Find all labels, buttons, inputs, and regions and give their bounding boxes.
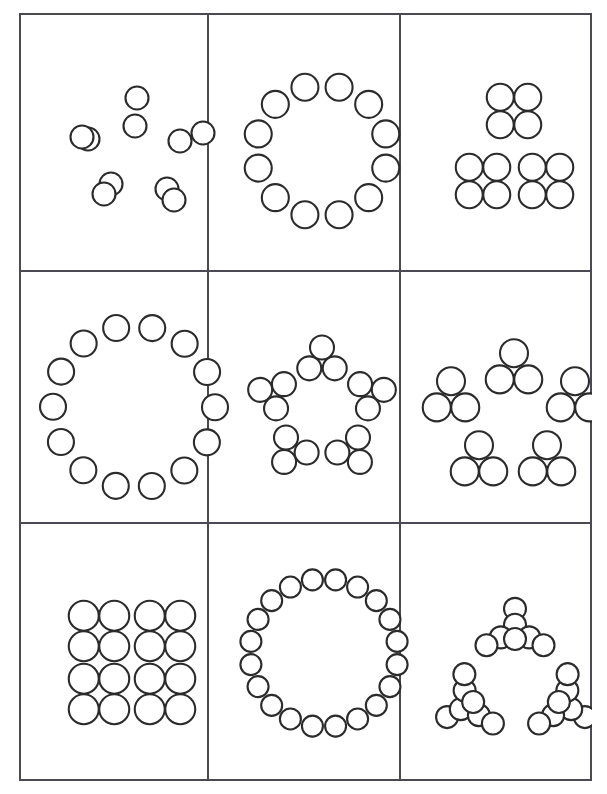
- dot: [323, 356, 347, 380]
- dot: [514, 84, 541, 111]
- dot: [71, 331, 97, 357]
- dot: [486, 365, 514, 393]
- dot: [451, 457, 479, 485]
- dot: [171, 457, 197, 483]
- dot: [387, 654, 408, 675]
- dot: [99, 694, 129, 724]
- dot: [482, 713, 504, 735]
- dot: [487, 84, 514, 111]
- dot: [519, 181, 546, 208]
- dot: [124, 115, 147, 138]
- dot: [479, 457, 507, 485]
- dot: [297, 356, 321, 380]
- dot: [451, 393, 479, 421]
- dot: [325, 569, 346, 590]
- dot: [355, 184, 382, 211]
- dot: [192, 122, 215, 145]
- dot: [519, 154, 546, 181]
- dot: [423, 393, 451, 421]
- dot: [126, 87, 149, 110]
- dot: [165, 631, 195, 661]
- dot: [163, 189, 186, 212]
- dot: [546, 181, 573, 208]
- dot: [356, 396, 380, 420]
- dot: [280, 577, 301, 598]
- dot: [69, 601, 99, 631]
- dot: [262, 91, 289, 118]
- dot: [261, 695, 282, 716]
- dot: [70, 457, 96, 483]
- dot: [274, 426, 298, 450]
- dot: [69, 694, 99, 724]
- dot: [483, 181, 510, 208]
- dot: [487, 111, 514, 138]
- dot: [326, 74, 353, 101]
- dot: [547, 457, 575, 485]
- panel-grid: [19, 13, 592, 781]
- dot: [248, 609, 269, 630]
- dot: [69, 631, 99, 661]
- dot: [547, 393, 575, 421]
- dot: [437, 367, 465, 395]
- dot: [40, 394, 66, 420]
- dot: [48, 429, 74, 455]
- dot: [453, 663, 475, 685]
- dot: [355, 91, 382, 118]
- dot: [245, 155, 272, 182]
- dot: [240, 631, 261, 652]
- dot: [71, 126, 94, 149]
- dot: [48, 359, 74, 385]
- dot: [348, 450, 372, 474]
- dot: [169, 130, 192, 153]
- dot: [295, 441, 319, 465]
- dot: [514, 365, 542, 393]
- dot: [546, 154, 573, 181]
- dot: [135, 601, 165, 631]
- stimulus-sheet: [0, 0, 607, 794]
- dot: [500, 339, 528, 367]
- dot: [387, 631, 408, 652]
- dot: [139, 315, 165, 341]
- dot: [69, 664, 99, 694]
- dot: [202, 394, 228, 420]
- dot: [348, 372, 372, 396]
- dot: [165, 664, 195, 694]
- dot: [194, 429, 220, 455]
- dot: [262, 184, 289, 211]
- dot: [165, 601, 195, 631]
- dot: [261, 590, 282, 611]
- dot: [135, 631, 165, 661]
- dot: [372, 155, 399, 182]
- dot: [93, 183, 116, 206]
- dot: [194, 359, 220, 385]
- dot: [347, 577, 368, 598]
- dot: [291, 74, 318, 101]
- dot: [325, 716, 346, 737]
- dot: [272, 450, 296, 474]
- dot: [346, 426, 370, 450]
- dot: [366, 695, 387, 716]
- dot: [302, 716, 323, 737]
- dot: [379, 676, 400, 697]
- dot: [99, 601, 129, 631]
- dot: [245, 120, 272, 147]
- dot: [561, 367, 589, 395]
- dot: [165, 694, 195, 724]
- dot: [366, 590, 387, 611]
- dot: [272, 372, 296, 396]
- dot: [135, 694, 165, 724]
- dot: [465, 431, 493, 459]
- dot: [310, 336, 334, 360]
- dot: [462, 691, 484, 713]
- dot: [291, 201, 318, 228]
- dot: [99, 664, 129, 694]
- dot: [302, 569, 323, 590]
- dot: [557, 663, 579, 685]
- dot: [99, 631, 129, 661]
- grid-canvas: [19, 13, 592, 781]
- dot: [372, 120, 399, 147]
- dot: [533, 431, 561, 459]
- dot: [139, 473, 165, 499]
- dot: [519, 457, 547, 485]
- dot: [475, 634, 497, 656]
